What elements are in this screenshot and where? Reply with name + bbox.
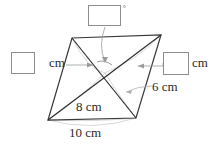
diagonals (48, 35, 161, 120)
leader-angle-path (102, 27, 106, 62)
leader-right-arrowhead (138, 64, 144, 69)
diagonal-short-label: 6 cm (152, 80, 178, 93)
degree-symbol: ° (123, 5, 126, 12)
leader-six (126, 86, 152, 94)
guide-curves (48, 35, 161, 126)
left-unit-label: cm (49, 56, 65, 69)
leader-right (138, 63, 163, 69)
diagonal-top-right-to-bottom-left (48, 35, 161, 120)
base-length-label: 10 cm (69, 126, 101, 139)
right-length-answer-box[interactable] (163, 52, 189, 75)
right-unit-label: cm (192, 56, 208, 69)
angle-answer-box[interactable] (88, 5, 121, 26)
left-length-answer-box[interactable] (11, 52, 35, 74)
diagonal-long-label: 8 cm (76, 100, 102, 113)
geometry-figure-container: ° cm cm 6 cm 8 cm 10 cm (0, 0, 216, 145)
leader-angle (102, 27, 109, 63)
